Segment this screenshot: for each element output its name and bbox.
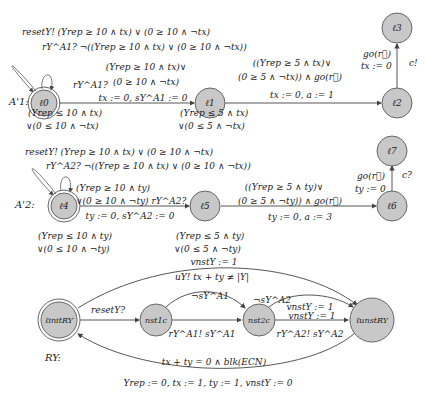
edge-l0-l1-guard1: (Yrep ≥ 10 ∧ tx)∨	[106, 62, 187, 72]
self-loop-label-1: resetY! (Yrep ≥ 10 ∧ tx) ∨ (0 ≥ 10 ∧ ¬tx…	[25, 147, 213, 157]
location-l6-label: ℓ6	[387, 201, 396, 211]
self-loop-edge-outer	[32, 169, 56, 195]
edge-l0-l1-update: tx := 0, sY^A1 := 0	[99, 93, 188, 103]
edge-l0-l1-guard2: (0 ≥ 10 ∧ ¬tx)	[113, 77, 179, 87]
edge-l5-l6-update: ty := 0, a := 3	[268, 212, 332, 222]
edge-l6-l7-guard: go(r⃗)	[357, 171, 385, 181]
invariant-l4-line1: (Yrep ≤ 10 ∧ ty)	[38, 231, 112, 241]
edge-l6-l7-update: ty := 0	[355, 184, 386, 194]
location-init-label: ℓinitRY	[45, 316, 73, 325]
edge-bottom-guard: tx + ty = 0 ∧ blk(ECN)	[162, 357, 266, 367]
edge-nst1-nst2-arc-guard: ¬sY^A1	[191, 291, 229, 301]
edge-top-label: uY! tx + ty ≠ |Y|	[175, 272, 249, 282]
location-nst2-label: nst2c	[248, 316, 270, 325]
edge-l1-l2-guard1: ((Yrep ≥ 5 ∧ tx)∨	[253, 58, 331, 68]
edge-nst1-nst2-label: rY^A1! sY^A1	[169, 329, 236, 339]
edge-l1-l2-update: tx := 0, a := 1	[270, 90, 334, 100]
edge-l5-l6-guard2: (0 ≥ 5 ∧ ¬ty)) ∧ go(r⃗)	[238, 196, 342, 206]
edge-nst2-lnst-update: vnstY := 1	[288, 311, 335, 321]
edge-l6-l7-sync: c?	[402, 170, 412, 180]
edge-l0-l1-sync: rY^A1?	[73, 80, 108, 90]
location-nst1-label: nst1c	[145, 316, 167, 325]
self-loop-edge-outer	[12, 66, 36, 92]
invariant-l5-line2: ∨(0 ≤ 5 ∧ ¬ty)	[174, 244, 241, 254]
edge-l2-l3-guard: go(r⃗)	[363, 49, 391, 59]
invariant-l0-line1: (Yrep ≤ 10 ∧ tx)	[28, 108, 102, 118]
automaton-ry	[38, 268, 394, 369]
automaton-ry-name: RY:	[45, 352, 61, 363]
edge-l2-l3-sync: c!	[409, 58, 418, 68]
location-l7-label: ℓ7	[387, 146, 396, 156]
edge-l4-l5-guard2: ∨(0 ≥ 10 ∧ ¬ty) rY^A2?	[76, 196, 186, 206]
edge-nst2-lnst-label: rY^A2! sY^A2	[277, 329, 344, 339]
location-l3-label: ℓ3	[392, 23, 401, 33]
self-loop-label-2: rY^A1? ¬((Yrep ≥ 10 ∧ tx) ∨ (0 ≥ 10 ∧ ¬t…	[42, 42, 247, 52]
automaton-a2-name: A'2:	[15, 199, 35, 210]
edge-top-update: vnstY := 1	[190, 257, 237, 267]
automaton-a1-name: A'1:	[9, 96, 29, 107]
location-l5-label: ℓ5	[200, 201, 209, 211]
location-l2-label: ℓ2	[392, 98, 401, 108]
location-lnst-label: ℓunstRY	[356, 316, 388, 325]
edge-l4-l5-update: ty := 0, sY^A2 := 0	[86, 211, 175, 221]
location-l0-label: ℓ0	[39, 98, 48, 108]
edge-l1-l2-guard2: (0 ≥ 5 ∧ ¬tx)) ∧ go(r⃗)	[238, 72, 342, 82]
self-loop-label-2: rY^A2? ¬((Yrep ≥ 10 ∧ tx) ∨ (0 ≥ 10 ∧ ¬t…	[46, 161, 251, 171]
location-l4-label: ℓ4	[59, 201, 68, 211]
edge-l2-l3-update: tx := 0	[361, 61, 392, 71]
self-loop-label-1: resetY! (Yrep ≥ 10 ∧ tx) ∨ (0 ≥ 10 ∧ ¬tx…	[22, 27, 210, 37]
edge-l5-l6-guard1: ((Yrep ≥ 5 ∧ ty)∨	[245, 182, 323, 192]
edge-l4-l5-guard1: (Yrep ≥ 10 ∧ ty)	[76, 183, 150, 193]
location-l1-label: ℓ1	[205, 98, 214, 108]
invariant-l5-line1: (Yrep ≤ 5 ∧ ty)	[176, 231, 244, 241]
invariant-l0-line2: ∨(0 ≤ 10 ∧ ¬tx)	[26, 121, 99, 131]
invariant-l1-line2: ∨(0 ≤ 5 ∧ ¬tx)	[178, 121, 245, 131]
edge-bottom-update: Yrep := 0, tx := 1, ty := 1, vnstY := 0	[123, 378, 292, 388]
edge-nst2-lnst-arc-guard: ¬sY^A2	[253, 295, 291, 305]
edge-init-nst1-sync: resetY?	[91, 305, 125, 315]
invariant-l4-line2: ∨(0 ≤ 10 ∧ ¬ty)	[37, 244, 110, 254]
invariant-l1-line1: (Yrep ≤ 5 ∧ tx)	[180, 108, 248, 118]
